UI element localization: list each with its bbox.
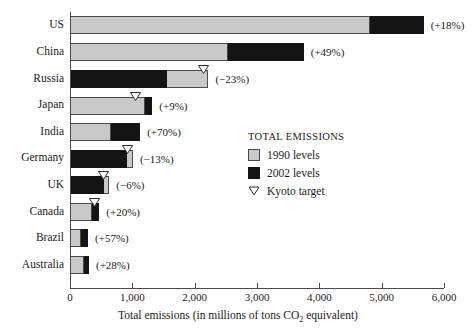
legend-item-kyoto: Kyoto target [248, 183, 344, 199]
category-label-germany: Germany [0, 151, 64, 163]
bar-percent-label: (+28%) [96, 258, 130, 272]
x-axis-tick-label: 2,000 [182, 291, 207, 303]
bar-percent-label: (+18%) [431, 18, 465, 32]
emissions-bar-chart: US China Russia Japan India Germany UK C… [0, 0, 476, 335]
category-label-uk: UK [0, 178, 64, 190]
bar-segment-1990 [70, 43, 228, 61]
x-axis-tick-label: 3,000 [245, 291, 270, 303]
legend-label-kyoto: Kyoto target [267, 185, 325, 197]
bar-percent-label: (+20%) [106, 205, 140, 219]
bar-percent-label: (+57%) [95, 231, 129, 245]
x-axis-title-prefix: Total emissions (in millions of tons CO [118, 309, 299, 321]
bar-segment-1990 [70, 16, 370, 34]
x-axis-title-suffix: equivalent) [303, 309, 358, 321]
x-axis-tick [319, 283, 320, 288]
black-square-icon [248, 167, 260, 179]
x-axis-tick-label: 1,000 [120, 291, 145, 303]
kyoto-target-marker [198, 60, 209, 69]
category-label-us: US [0, 18, 64, 30]
kyoto-target-marker [130, 87, 141, 96]
kyoto-target-marker [98, 166, 109, 175]
bar-percent-label: (+9%) [159, 99, 187, 113]
bar-segment-2002 [70, 70, 167, 88]
x-axis-tick [444, 283, 445, 288]
down-triangle-icon [248, 185, 260, 197]
category-label-japan: Japan [0, 98, 64, 110]
bar-percent-label: (−23%) [215, 72, 249, 86]
x-axis-tick-label: 5,000 [369, 291, 394, 303]
bar-percent-label: (+70%) [147, 125, 181, 139]
bar-percent-label: (−13%) [140, 152, 174, 166]
category-label-brazil: Brazil [0, 231, 64, 243]
x-axis-tick-label: 4,000 [307, 291, 332, 303]
x-axis-tick-label: 6,000 [432, 291, 457, 303]
legend: TOTAL EMISSIONS 1990 levels 2002 levels … [248, 131, 344, 201]
gray-square-icon [248, 149, 260, 161]
category-label-australia: Australia [0, 258, 64, 270]
x-axis-tick-label: 0 [67, 291, 73, 303]
x-axis-title: Total emissions (in millions of tons CO2… [0, 309, 476, 324]
x-axis-tick [132, 283, 133, 288]
category-label-china: China [0, 45, 64, 57]
x-axis-tick [257, 283, 258, 288]
legend-title: TOTAL EMISSIONS [248, 131, 344, 142]
bar-percent-label: (+49%) [311, 45, 345, 59]
legend-label-1990: 1990 levels [267, 149, 320, 161]
category-label-canada: Canada [0, 205, 64, 217]
bar-segment-1990 [70, 256, 84, 274]
x-axis-line [70, 288, 444, 289]
kyoto-target-marker [89, 193, 100, 202]
bar-segment-1990 [70, 123, 111, 141]
x-axis-tick [382, 283, 383, 288]
kyoto-target-marker [122, 140, 133, 149]
legend-label-2002: 2002 levels [267, 167, 320, 179]
bar-segment-1990 [70, 229, 81, 247]
x-axis-tick [195, 283, 196, 288]
legend-item-2002: 2002 levels [248, 165, 344, 181]
category-label-india: India [0, 125, 64, 137]
category-label-russia: Russia [0, 72, 64, 84]
y-axis-line [70, 12, 71, 288]
bar-percent-label: (−6%) [116, 178, 144, 192]
legend-item-1990: 1990 levels [248, 147, 344, 163]
